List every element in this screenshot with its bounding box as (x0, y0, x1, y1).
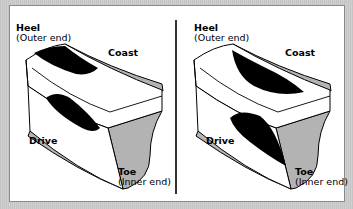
figure-panel: Heel (Outer end) Coast Drive Toe (Inner … (9, 5, 345, 202)
heel-sub-label: (Outer end) (194, 33, 249, 43)
panel-divider (175, 20, 177, 194)
drive-label: Drive (206, 136, 234, 146)
coast-label: Coast (108, 48, 138, 58)
drive-label: Drive (29, 136, 57, 146)
left-tooth-diagram: Heel (Outer end) Coast Drive Toe (Inner … (10, 6, 178, 203)
coast-label: Coast (285, 48, 315, 58)
right-tooth-diagram: Heel (Outer end) Coast Drive Toe (Inner … (178, 6, 346, 203)
toe-sub-label: (Inner end) (295, 177, 348, 187)
toe-sub-label: (Inner end) (118, 177, 171, 187)
heel-sub-label: (Outer end) (16, 33, 71, 43)
